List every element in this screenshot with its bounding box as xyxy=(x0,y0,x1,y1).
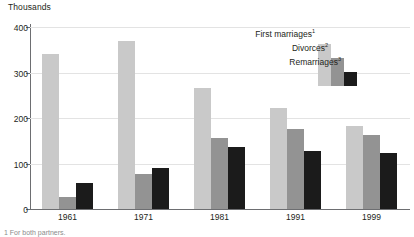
bar-divorces-1971 xyxy=(135,174,152,209)
bar-first-marriages-1961 xyxy=(42,54,59,209)
y-tick-label: 300 xyxy=(4,68,28,78)
y-axis-title: Thousands xyxy=(8,2,51,12)
chart-legend: First marriages1Divorces2Remarriages3 xyxy=(232,28,414,88)
legend-label-text: Divorces xyxy=(292,43,325,53)
legend-label: First marriages1 xyxy=(232,28,315,40)
bar-divorces-1961 xyxy=(59,197,76,209)
bar-remarriages-1999 xyxy=(380,153,397,209)
x-tick-label-1999: 1999 xyxy=(342,212,402,222)
legend-item-remarriages[interactable]: Remarriages3 xyxy=(232,56,414,70)
bar-remarriages-1971 xyxy=(152,168,169,209)
x-tick-label-1961: 1961 xyxy=(38,212,98,222)
bar-group xyxy=(42,27,93,209)
legend-label-text: Remarriages xyxy=(289,57,338,67)
legend-label: Remarriages3 xyxy=(232,56,341,68)
x-tick-label-1971: 1971 xyxy=(114,212,174,222)
footnote-text: 1 For both partners. xyxy=(4,229,410,237)
bar-remarriages-1961 xyxy=(76,183,93,209)
legend-footnote-marker: 1 xyxy=(312,28,315,34)
legend-item-divorces[interactable]: Divorces2 xyxy=(232,42,414,56)
legend-footnote-marker: 2 xyxy=(325,42,328,48)
bar-first-marriages-1981 xyxy=(194,88,211,209)
y-tick-label: 200 xyxy=(4,114,28,124)
bar-group xyxy=(118,27,169,209)
y-tick-label: 100 xyxy=(4,159,28,169)
y-tick-label: 400 xyxy=(4,23,28,33)
x-tick-label-1991: 1991 xyxy=(266,212,326,222)
gridline xyxy=(30,209,410,210)
bar-first-marriages-1991 xyxy=(270,108,287,209)
bar-remarriages-1981 xyxy=(228,147,245,209)
chart-container: Thousands 0100200300400 1961197119811991… xyxy=(0,0,414,237)
y-tick-label: 0 xyxy=(4,205,28,215)
legend-footnote-marker: 3 xyxy=(338,56,341,62)
bar-first-marriages-1971 xyxy=(118,41,135,209)
legend-label: Divorces2 xyxy=(232,42,328,54)
bar-divorces-1981 xyxy=(211,138,228,209)
legend-label-text: First marriages xyxy=(255,29,312,39)
bar-remarriages-1991 xyxy=(304,151,321,209)
legend-item-first-marriages[interactable]: First marriages1 xyxy=(232,28,414,42)
bar-first-marriages-1999 xyxy=(346,126,363,209)
bar-divorces-1991 xyxy=(287,129,304,209)
legend-swatch-remarriages xyxy=(344,72,357,86)
x-tick-label-1981: 1981 xyxy=(190,212,250,222)
bar-divorces-1999 xyxy=(363,135,380,209)
